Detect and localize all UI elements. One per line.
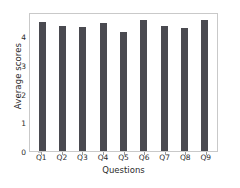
bar-slot <box>174 14 194 151</box>
x-tick-mark <box>185 152 186 155</box>
x-tick-slot: Q2 <box>52 153 73 165</box>
bar <box>161 26 168 151</box>
y-tick-label: 2 <box>12 90 26 99</box>
x-tick-mark <box>124 152 125 155</box>
bar-slot <box>73 14 93 151</box>
bar <box>120 32 127 151</box>
bar <box>201 20 208 151</box>
bar <box>181 28 188 151</box>
x-tick-mark <box>165 152 166 155</box>
bar <box>59 26 66 151</box>
x-tick-slot: Q3 <box>72 153 93 165</box>
bar <box>140 20 147 151</box>
bar-slot <box>93 14 113 151</box>
bar-slot <box>134 14 154 151</box>
bar-slot <box>195 14 215 151</box>
x-tick-slot: Q6 <box>134 153 155 165</box>
x-tick-label: Q1 <box>36 153 47 165</box>
x-tick-label: Q4 <box>98 153 109 165</box>
x-tick-mark <box>62 152 63 155</box>
x-axis-label: Questions <box>29 165 218 175</box>
bar-series <box>30 14 217 151</box>
y-tick-label: 4 <box>12 33 26 42</box>
x-tick-slot: Q4 <box>93 153 114 165</box>
x-tick-slot: Q7 <box>154 153 175 165</box>
bar <box>39 22 46 151</box>
x-tick-slot: Q1 <box>31 153 52 165</box>
x-tick-mark <box>82 152 83 155</box>
x-tick-label: Q6 <box>139 153 150 165</box>
x-tick-slot: Q5 <box>113 153 134 165</box>
y-tick-label: 0 <box>12 148 26 157</box>
y-axis-ticks: 01234 <box>12 0 26 188</box>
x-tick-label: Q3 <box>77 153 88 165</box>
x-tick-label: Q5 <box>118 153 129 165</box>
x-tick-slot: Q9 <box>196 153 217 165</box>
x-tick-label: Q7 <box>159 153 170 165</box>
x-tick-slot: Q8 <box>175 153 196 165</box>
x-tick-label: Q9 <box>200 153 211 165</box>
y-tick-label: 1 <box>12 119 26 128</box>
x-axis-ticks: Q1Q2Q3Q4Q5Q6Q7Q8Q9 <box>29 153 218 165</box>
y-tick-label: 3 <box>12 62 26 71</box>
x-tick-mark <box>206 152 207 155</box>
bar <box>79 27 86 151</box>
bar-slot <box>113 14 133 151</box>
bar-slot <box>154 14 174 151</box>
bar <box>100 23 107 151</box>
x-tick-mark <box>103 152 104 155</box>
bar-chart-figure: Average scores 01234 Q1Q2Q3Q4Q5Q6Q7Q8Q9 … <box>0 0 240 188</box>
bar-slot <box>32 14 52 151</box>
bar-slot <box>52 14 72 151</box>
x-tick-label: Q8 <box>180 153 191 165</box>
x-tick-mark <box>41 152 42 155</box>
x-tick-label: Q2 <box>57 153 68 165</box>
plot-area <box>29 13 218 152</box>
x-tick-mark <box>144 152 145 155</box>
